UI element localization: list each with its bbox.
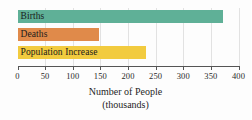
- x-tick: [128, 66, 129, 70]
- x-tick-label: 50: [30, 71, 60, 81]
- x-tick-label: 150: [85, 71, 115, 81]
- gridline: [239, 8, 240, 66]
- x-tick: [73, 66, 74, 70]
- x-tick: [18, 66, 19, 70]
- x-axis-title-line2: (thousands): [0, 98, 251, 111]
- bar-label: Deaths: [21, 28, 48, 41]
- bar-births: Births: [18, 10, 224, 23]
- x-tick: [156, 66, 157, 70]
- x-tick-label: 200: [113, 71, 143, 81]
- x-tick: [239, 66, 240, 70]
- bar-label: Births: [21, 10, 45, 23]
- bar-population-increase: Population Increase: [18, 46, 147, 59]
- x-tick-label: 300: [168, 71, 198, 81]
- bar-deaths: Deaths: [18, 28, 100, 41]
- bar-label: Population Increase: [21, 46, 98, 59]
- bar-chart: BirthsDeathsPopulation Increase 05010015…: [0, 0, 251, 120]
- x-tick: [100, 66, 101, 70]
- x-tick: [211, 66, 212, 70]
- x-tick-label: 100: [58, 71, 88, 81]
- x-tick: [183, 66, 184, 70]
- x-tick-label: 400: [224, 71, 252, 81]
- x-tick-label: 350: [196, 71, 226, 81]
- x-tick-label: 0: [3, 71, 33, 81]
- plot-area: BirthsDeathsPopulation Increase: [18, 8, 239, 66]
- x-axis-title-line1: Number of People: [89, 86, 162, 97]
- x-tick-label: 250: [141, 71, 171, 81]
- x-axis-title: Number of People (thousands): [0, 85, 251, 111]
- x-tick: [45, 66, 46, 70]
